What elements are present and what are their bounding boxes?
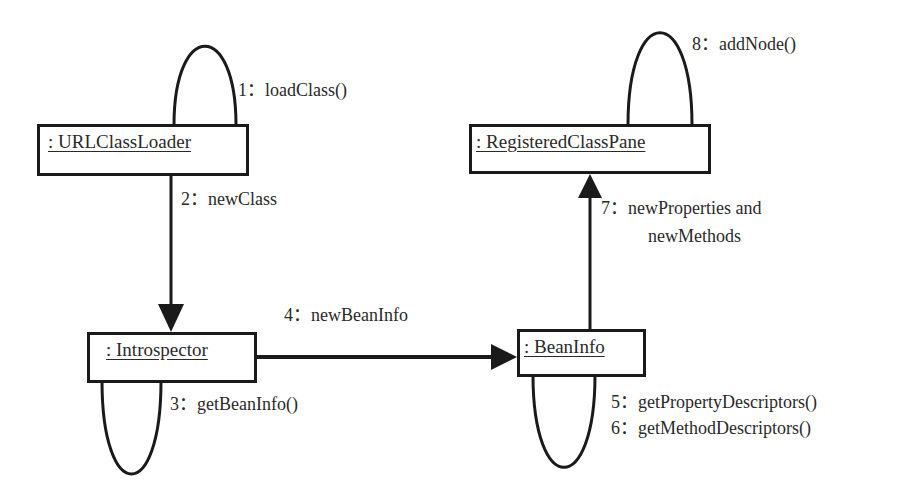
message-3-label: 3：getBeanInfo() [170,393,298,415]
arrowhead-newclass [158,304,184,332]
message-5-label: 5：getPropertyDescriptors() [611,391,817,413]
self-loop-loadclass [174,46,236,125]
object-label: : BeanInfo [524,336,605,358]
self-loop-descriptors [533,375,595,467]
arrowhead-newbeaninfo [491,344,517,370]
message-1-label: 1：loadClass() [238,79,347,101]
object-introspector: : Introspector [87,332,257,383]
self-loop-addnode [628,33,692,125]
message-2-label: 2：newClass [181,188,277,210]
self-loop-getbeaninfo [102,381,161,474]
object-beaninfo: : BeanInfo [517,329,646,377]
arrowhead-newproperties [578,174,602,198]
message-7-label-line2: newMethods [648,225,741,247]
object-label: : RegisteredClassPane [476,131,645,153]
object-label: : Introspector [106,339,208,361]
message-8-label: 8：addNode() [692,33,796,55]
message-7-label-line1: 7：newProperties and [601,197,761,219]
object-label: : URLClassLoader [48,131,191,153]
object-registeredclasspane: : RegisteredClassPane [469,124,711,174]
message-4-label: 4：newBeanInfo [284,304,408,326]
message-6-label: 6：getMethodDescriptors() [611,417,811,439]
object-urlclassloader: : URLClassLoader [37,124,249,176]
